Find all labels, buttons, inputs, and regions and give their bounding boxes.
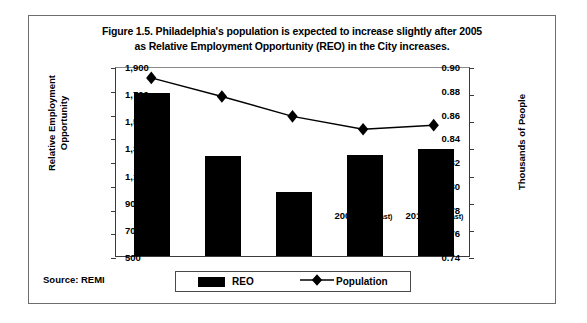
legend-label-reo: REO xyxy=(232,277,254,287)
population-marker-1975 xyxy=(146,72,156,85)
population-marker-1985 xyxy=(217,90,227,103)
legend-swatch-diamond-icon xyxy=(300,273,334,291)
chart-title: Figure 1.5. Philadelphia's population is… xyxy=(29,24,555,53)
right-tick-mark xyxy=(469,204,474,205)
population-marker-2005 xyxy=(358,123,368,136)
right-axis-title: Thousands of People xyxy=(516,67,528,217)
line-series-population xyxy=(116,68,469,256)
legend-item-population: Population xyxy=(300,272,388,291)
category-label-text: 2015 xyxy=(406,210,427,221)
left-axis-title: Relative Employment Opportunity xyxy=(46,48,70,198)
population-markers xyxy=(146,72,439,136)
legend-label-population: Population xyxy=(336,277,388,287)
right-tick-mark xyxy=(469,258,474,259)
category-label-text: 2005 xyxy=(335,210,356,221)
legend-swatch-bar-icon xyxy=(198,277,225,287)
left-tick-mark xyxy=(111,258,116,259)
right-tick-mark xyxy=(469,95,474,96)
population-marker-2015 xyxy=(429,119,439,132)
chart-title-line-1: Figure 1.5. Philadelphia's population is… xyxy=(29,24,555,39)
chart-legend: REO Population xyxy=(175,271,411,292)
right-tick-mark xyxy=(469,231,474,232)
category-label-2015: 2015 (Forecast) xyxy=(375,211,495,221)
chart-title-line-2: as Relative Employment Opportunity (REO)… xyxy=(29,39,555,54)
right-tick-mark xyxy=(469,122,474,123)
category-label-text: 1995 xyxy=(282,210,303,221)
right-tick-mark xyxy=(469,68,474,69)
left-axis-title-line-2: Opportunity xyxy=(58,48,70,198)
category-label-text: 1985 xyxy=(211,210,232,221)
plot-area: 0.900.880.860.840.820.800.780.760.74 1,9… xyxy=(115,67,470,257)
figure-frame: Figure 1.5. Philadelphia's population is… xyxy=(28,15,556,304)
population-marker-1995 xyxy=(287,110,297,123)
source-note: Source: REMI xyxy=(43,275,105,285)
legend-item-reo: REO xyxy=(198,272,254,291)
right-tick-mark xyxy=(469,149,474,150)
right-tick-mark xyxy=(469,177,474,178)
category-label-text: 1975 xyxy=(140,210,161,221)
category-label-forecast-note: (Forecast) xyxy=(427,212,464,221)
left-axis-title-line-1: Relative Employment xyxy=(46,48,58,198)
